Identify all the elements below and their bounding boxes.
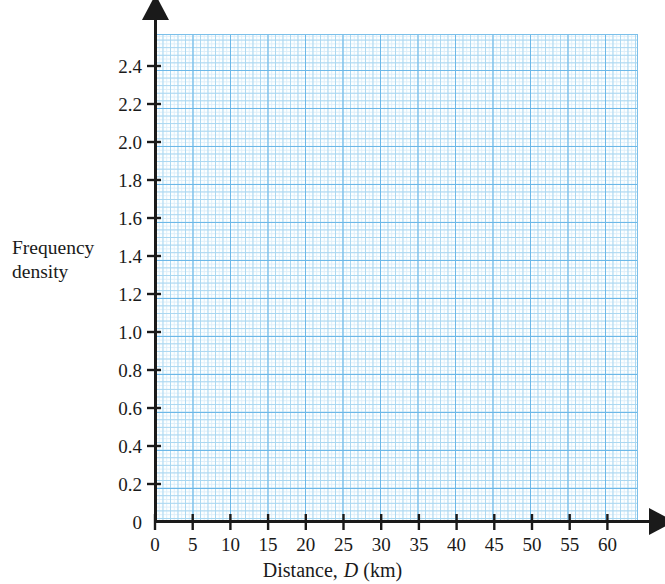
x-tick-label-35: 35 [409,535,428,554]
x-tick-label-15: 15 [259,535,278,554]
y-tick-label-1.8: 1.8 [98,171,142,190]
y-tick-label-0.6: 0.6 [98,399,142,418]
y-axis-title-line2: density [12,260,124,284]
y-tick-label-1.0: 1.0 [98,323,142,342]
y-tick-label-2.2: 2.2 [98,95,142,114]
x-tick-label-55: 55 [560,535,579,554]
y-tick-label-0.8: 0.8 [98,361,142,380]
x-axis-title-unit: (km) [363,559,402,581]
y-tick-label-0.2: 0.2 [98,475,142,494]
x-tick-label-20: 20 [296,535,315,554]
x-axis-title-symbol: D [344,559,358,581]
x-tick-label-40: 40 [447,535,466,554]
x-tick-label-0: 0 [150,535,160,554]
x-axis-title-text: Distance, [263,559,338,581]
x-axis-title: Distance,D(km) [0,558,665,582]
y-tick-label-1.2: 1.2 [98,285,142,304]
y-tick-label-0.4: 0.4 [98,437,142,456]
y-tick-label-2.4: 2.4 [98,57,142,76]
y-axis-title: Frequency density [12,236,124,284]
frequency-density-graph: 0 0.2 0.4 0.6 0.8 1.0 1.2 1.4 1.6 1.8 2.… [0,0,665,584]
x-tick-label-50: 50 [523,535,542,554]
x-tick-label-45: 45 [485,535,504,554]
y-tick-label-0: 0 [98,513,142,532]
x-tick-label-60: 60 [598,535,617,554]
x-tick-label-10: 10 [221,535,240,554]
x-tick-label-5: 5 [188,535,198,554]
y-tick-label-1.6: 1.6 [98,209,142,228]
y-axis-title-line1: Frequency [12,236,124,260]
y-tick-label-2.0: 2.0 [98,133,142,152]
x-tick-label-30: 30 [372,535,391,554]
x-tick-label-25: 25 [334,535,353,554]
